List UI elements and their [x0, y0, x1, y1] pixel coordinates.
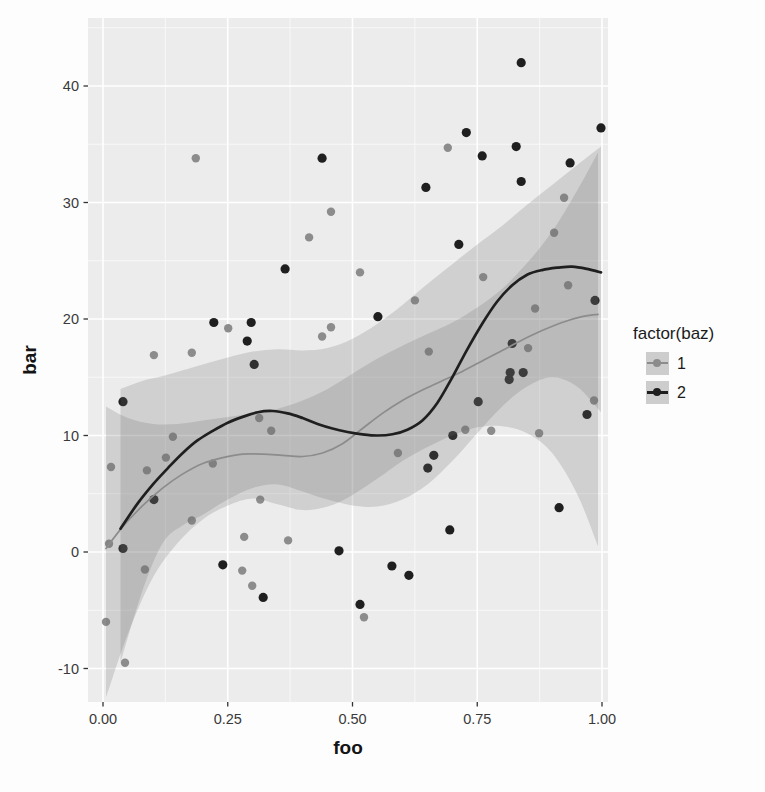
x-axis-title: foo [88, 737, 608, 759]
legend-key-point-icon [653, 359, 661, 367]
data-point [555, 503, 564, 512]
data-point [218, 560, 227, 569]
y-tick-label: -10 [58, 661, 79, 677]
legend-title: factor(baz) [633, 324, 714, 344]
data-point [188, 349, 196, 357]
data-point [192, 154, 200, 162]
legend-entries: 12 [633, 352, 714, 404]
x-tick-label: 1.00 [588, 711, 616, 727]
x-tick-label: 0.25 [214, 711, 242, 727]
y-tick-label: 40 [63, 78, 79, 94]
data-point [238, 566, 246, 574]
y-tick-label: 30 [63, 195, 79, 211]
data-point [444, 144, 452, 152]
y-axis-title: bar [19, 345, 41, 375]
y-tick-label: 0 [71, 544, 79, 560]
data-point [387, 561, 396, 570]
data-point [421, 183, 430, 192]
data-point [305, 233, 313, 241]
data-point [404, 571, 413, 580]
data-point [243, 337, 252, 346]
x-tick-label: 0.50 [338, 711, 366, 727]
data-point [121, 659, 129, 667]
data-point [517, 58, 526, 67]
data-point [318, 332, 326, 340]
legend-entry: 1 [646, 352, 714, 375]
data-point [355, 600, 364, 609]
legend-key-point-icon [653, 388, 661, 396]
data-point [334, 546, 343, 555]
data-point [150, 351, 158, 359]
data-point [356, 268, 364, 276]
legend-key-swatch [646, 381, 669, 404]
data-point [445, 525, 454, 534]
data-point [327, 208, 335, 216]
data-point [517, 177, 526, 186]
data-point [224, 324, 232, 332]
data-point [462, 128, 471, 137]
data-point [487, 427, 495, 435]
data-point [512, 142, 521, 151]
x-tick-label: 0.75 [463, 711, 491, 727]
data-point [248, 582, 256, 590]
data-point [566, 158, 575, 167]
data-point [247, 318, 256, 327]
data-point [209, 318, 218, 327]
legend-entry: 2 [646, 381, 714, 404]
data-point [284, 536, 292, 544]
legend-entry-label: 2 [677, 384, 686, 402]
y-tick-label: 20 [63, 311, 79, 327]
data-point [281, 264, 290, 273]
data-point [596, 123, 605, 132]
legend-entry-label: 1 [677, 355, 686, 373]
legend-key-swatch [646, 352, 669, 375]
data-point [327, 323, 335, 331]
y-tick-label: 10 [63, 428, 79, 444]
data-point [373, 312, 382, 321]
data-point [478, 151, 487, 160]
data-point [454, 240, 463, 249]
x-tick-label: 0.00 [89, 711, 117, 727]
data-point [360, 613, 368, 621]
data-point [259, 593, 268, 602]
data-point [318, 154, 327, 163]
legend: factor(baz) 12 [633, 324, 714, 410]
data-point [240, 533, 248, 541]
plot-figure: 0.000.250.500.751.00-10010203040 foo bar… [0, 0, 765, 792]
